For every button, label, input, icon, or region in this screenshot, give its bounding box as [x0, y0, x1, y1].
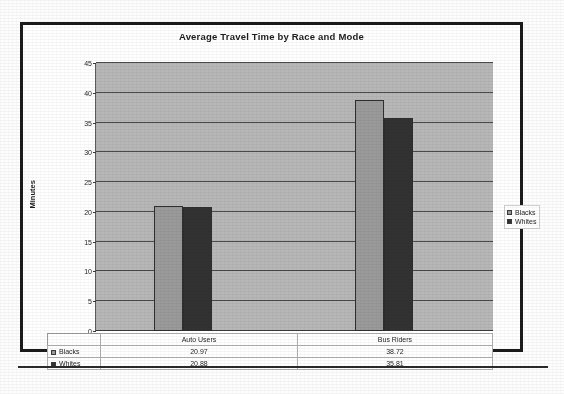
- bar-auto-users-blacks: [154, 206, 183, 331]
- table-value-cell: 20.97: [101, 346, 298, 358]
- y-tick-label: 15: [84, 238, 92, 245]
- bar-auto-users-whites: [183, 207, 212, 331]
- y-tick-label: 45: [84, 60, 92, 67]
- y-tick-label: 25: [84, 179, 92, 186]
- legend-item-whites: Whites: [507, 217, 536, 226]
- y-tick-label: 5: [88, 298, 92, 305]
- legend-label: Whites: [515, 217, 536, 226]
- legend-item-blacks: Blacks: [507, 208, 536, 217]
- table-header-row: Auto UsersBus Riders: [48, 334, 493, 346]
- table-row-label-blacks: Blacks: [48, 346, 101, 358]
- scanned-page: Average Travel Time by Race and Mode Min…: [0, 0, 564, 394]
- y-tick-mark: [93, 331, 96, 332]
- table-value-cell: 38.72: [297, 346, 492, 358]
- table-corner-cell: [48, 334, 101, 346]
- y-tick-label: 10: [84, 268, 92, 275]
- plot-wrapper: 454035302520151050: [75, 63, 493, 331]
- legend-swatch-blacks-icon: [507, 210, 512, 215]
- chart-title: Average Travel Time by Race and Mode: [23, 31, 520, 42]
- y-tick-label: 40: [84, 89, 92, 96]
- horizontal-rule: [18, 366, 548, 368]
- table-row: Blacks20.9738.72: [48, 346, 493, 358]
- y-tick-label: 35: [84, 119, 92, 126]
- legend-label: Blacks: [515, 208, 536, 217]
- y-tick-label: 20: [84, 208, 92, 215]
- y-axis-title: Minutes: [28, 195, 37, 209]
- chart-legend: BlacksWhites: [504, 205, 540, 229]
- category-label-bus-riders: Bus Riders: [297, 334, 492, 346]
- bar-bus-riders-whites: [384, 118, 413, 331]
- category-label-auto-users: Auto Users: [101, 334, 298, 346]
- legend-swatch-whites-icon: [507, 219, 512, 224]
- bar-bus-riders-blacks: [355, 100, 384, 331]
- series-swatch-blacks-icon: [51, 350, 56, 355]
- bars-layer: [96, 63, 493, 331]
- y-tick-label: 30: [84, 149, 92, 156]
- figure-frame: Average Travel Time by Race and Mode Min…: [20, 22, 523, 352]
- plot-area: 454035302520151050: [95, 63, 493, 331]
- chart-data-table: Auto UsersBus RidersBlacks20.9738.72Whit…: [47, 333, 493, 370]
